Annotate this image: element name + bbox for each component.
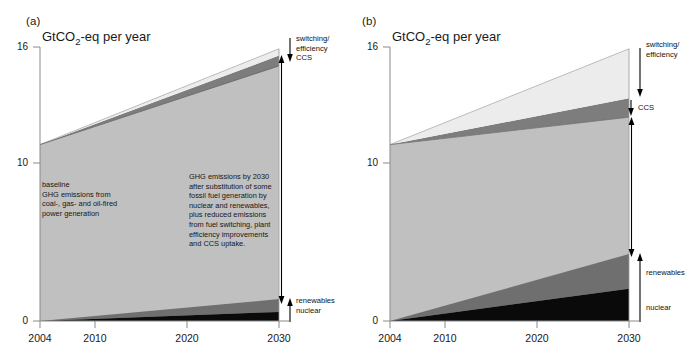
panel-b-label-switching-line-2: efficiency [646,50,679,60]
panel-a-ytick-label-0: 0 [8,315,28,326]
panel-b-ytick-label-16: 16 [358,41,378,52]
panel-b-label-switching-line-1: switching/ [646,40,679,50]
panel-a-annotation-reduced-line-3: fossil fuel generation by [189,191,272,201]
panel-b-label-renewables: renewables [646,268,685,278]
panel-a-annotation-baseline: baseline GHG emissions from coal-, gas- … [42,180,117,218]
panel-b-axis-title-main: GtCO [392,29,425,44]
panel-a-xtick-label-2030: 2030 [259,332,299,344]
panel-b-renewables-nuclear-arrow [637,253,643,322]
panel-b-ytick-label-10: 10 [358,157,378,168]
panel-a-label-switching-efficiency: switching/ efficiency [296,34,329,53]
panel-a-label-renewables: renewables [296,296,335,306]
panel-a: (a) GtCO2-eq per year [0,0,349,356]
panel-a-switching-ccs-arrow [287,38,293,62]
panel-b-ytick-label-0: 0 [358,315,378,326]
panel-a-xtick-label-2020: 2020 [167,332,207,344]
panel-b-label-switching-efficiency: switching/ efficiency [646,40,679,59]
panel-b-label-ccs: CCS [638,103,654,113]
panel-b-switching-arrow [637,48,643,97]
panel-a-annotation-reduced-line-8: and CCS uptake. [189,239,272,249]
panel-a-label-switching-line-1: switching/ [296,34,329,44]
panel-a-axis-title-main: GtCO [42,29,75,44]
panel-a-annotation-reduced-line-5: plus reduced emissions [189,210,272,220]
panel-b-letter: (b) [362,15,376,27]
panel-a-annotation-reduced: GHG emissions by 2030 after substitution… [189,172,272,249]
panel-a-annotation-baseline-line-1: baseline [42,180,117,190]
panel-b-xtick-label-2004: 2004 [370,332,410,344]
panel-a-label-ccs: CCS [296,53,312,63]
panel-a-axis-title: GtCO2-eq per year [42,29,151,47]
panel-a-annotation-reduced-line-7: efficiency improvements [189,230,272,240]
panel-b-xtick-label-2010: 2010 [425,332,465,344]
panel-a-renewables-nuclear-arrow [287,298,293,322]
panel-a-annotation-reduced-line-4: nuclear and renewables, [189,201,272,211]
panel-a-label-nuclear: nuclear [296,306,321,316]
panel-b-reduction-arrow [629,117,635,257]
panel-a-ytick-label-16: 16 [8,41,28,52]
panel-a-xtick-label-2010: 2010 [75,332,115,344]
panel-a-annotation-baseline-line-3: coal-, gas- and oil-fired [42,199,117,209]
panel-a-letter: (a) [26,15,40,27]
figure-two-panel-emissions-chart: (a) GtCO2-eq per year [0,0,699,356]
panel-a-annotation-baseline-line-4: power generation [42,209,117,219]
panel-a-annotation-reduced-line-1: GHG emissions by 2030 [189,172,272,182]
panel-b-axis-title-rest: -eq per year [431,29,501,44]
panel-b-label-nuclear: nuclear [646,303,671,313]
panel-b-axis-title: GtCO2-eq per year [392,29,501,47]
panel-a-xtick-label-2004: 2004 [20,332,60,344]
panel-a-annotation-reduced-line-2: after substitution of some [189,182,272,192]
panel-a-label-switching-line-2: efficiency [296,44,329,54]
panel-a-reduction-arrow [279,55,285,304]
panel-b-xtick-label-2030: 2030 [609,332,649,344]
panel-a-annotation-reduced-line-6: from fuel switching, plant [189,220,272,230]
panel-a-annotation-baseline-line-2: GHG emissions from [42,190,117,200]
panel-b: (b) GtCO2-eq per year [350,0,699,356]
panel-a-axis-title-rest: -eq per year [81,29,151,44]
panel-b-xtick-label-2020: 2020 [517,332,557,344]
panel-a-ytick-label-10: 10 [8,157,28,168]
